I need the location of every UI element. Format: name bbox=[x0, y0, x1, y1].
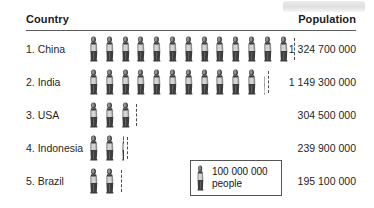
person-pictogram-icon bbox=[86, 135, 102, 161]
person-pictogram-icon bbox=[149, 69, 165, 95]
person-pictogram-icon bbox=[133, 36, 149, 62]
person-pictogram-icon bbox=[228, 36, 244, 62]
row-country-label: 3. USA bbox=[26, 109, 59, 121]
row-country-label: 4. Indonesia bbox=[26, 142, 83, 154]
row-end-tick bbox=[127, 137, 128, 159]
legend-box: 100 000 000 people bbox=[190, 160, 282, 196]
row-pictogram-bar bbox=[86, 102, 133, 128]
person-pictogram-icon bbox=[244, 36, 260, 62]
row-country-label: 1. China bbox=[26, 43, 65, 55]
person-pictogram-icon-partial bbox=[260, 69, 266, 95]
person-pictogram-icon bbox=[102, 69, 118, 95]
person-pictogram-icon bbox=[133, 69, 149, 95]
row-country-label: 2. India bbox=[26, 76, 60, 88]
person-pictogram-icon bbox=[102, 168, 118, 194]
person-pictogram-icon bbox=[212, 69, 228, 95]
person-pictogram-icon bbox=[181, 36, 197, 62]
row-population-value: 1 149 300 000 bbox=[289, 76, 356, 88]
row-end-tick bbox=[268, 71, 269, 93]
table-row: 4. Indonesia239 900 000 bbox=[0, 131, 374, 164]
person-pictogram-icon bbox=[260, 36, 276, 62]
row-population-value: 1 324 700 000 bbox=[289, 43, 356, 55]
legend-unit: people bbox=[212, 178, 268, 190]
person-pictogram-icon bbox=[228, 69, 244, 95]
row-end-tick bbox=[121, 170, 122, 192]
person-pictogram-icon bbox=[181, 69, 197, 95]
row-pictogram-bar bbox=[86, 168, 118, 194]
person-pictogram-icon bbox=[102, 102, 118, 128]
person-pictogram-icon bbox=[197, 36, 213, 62]
person-pictogram-icon bbox=[86, 168, 102, 194]
column-header-country: Country bbox=[26, 13, 69, 25]
row-population-value: 239 900 000 bbox=[298, 142, 356, 154]
person-pictogram-icon bbox=[212, 36, 228, 62]
row-end-tick bbox=[136, 104, 137, 126]
person-pictogram-icon bbox=[118, 36, 134, 62]
table-header: Country Population bbox=[26, 13, 356, 30]
person-pictogram-icon bbox=[86, 69, 102, 95]
row-country-label: 5. Brazil bbox=[26, 175, 64, 187]
row-pictogram-bar bbox=[86, 135, 124, 161]
person-pictogram-icon bbox=[197, 69, 213, 95]
person-pictogram-icon bbox=[118, 102, 134, 128]
legend-amount: 100 000 000 bbox=[212, 166, 268, 178]
person-pictogram-icon bbox=[118, 69, 134, 95]
person-pictogram-icon bbox=[86, 102, 102, 128]
row-population-value: 304 500 000 bbox=[298, 109, 356, 121]
person-pictogram-icon-partial bbox=[118, 135, 124, 161]
table-row: 2. India1 149 300 000 bbox=[0, 65, 374, 98]
person-pictogram-icon bbox=[86, 36, 102, 62]
row-pictogram-bar bbox=[86, 36, 291, 62]
person-pictogram-icon bbox=[165, 36, 181, 62]
row-pictogram-bar bbox=[86, 69, 265, 95]
table-row: 1. China1 324 700 000 bbox=[0, 32, 374, 65]
column-header-population: Population bbox=[298, 13, 356, 25]
table-row: 5. Brazil195 100 000 bbox=[0, 164, 374, 197]
person-pictogram-icon bbox=[149, 36, 165, 62]
pictogram-rows: 1. China1 324 700 0002. India1 149 300 0… bbox=[0, 32, 374, 197]
row-population-value: 195 100 000 bbox=[298, 175, 356, 187]
top-right-chip bbox=[283, 1, 365, 12]
header-divider bbox=[26, 30, 356, 31]
person-pictogram-icon bbox=[194, 165, 207, 191]
person-pictogram-icon bbox=[102, 36, 118, 62]
person-pictogram-icon bbox=[244, 69, 260, 95]
person-pictogram-icon bbox=[102, 135, 118, 161]
legend-label: 100 000 000 people bbox=[212, 166, 268, 190]
table-row: 3. USA304 500 000 bbox=[0, 98, 374, 131]
person-pictogram-icon bbox=[165, 69, 181, 95]
